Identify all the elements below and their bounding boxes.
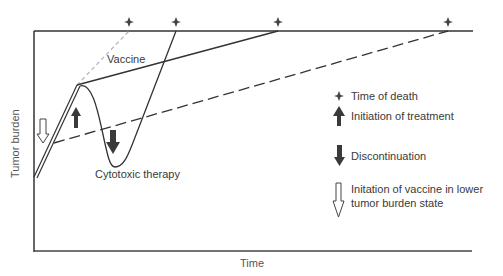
- legend-filled-up-arrow-icon: [333, 106, 345, 126]
- legend-label-initiation: Initiation of treatment: [351, 110, 454, 123]
- diamond-star-icon: [171, 17, 181, 27]
- death-markers: [124, 17, 453, 27]
- vaccine-curve-label: Vaccine: [107, 53, 145, 66]
- legend-label-discontinuation: Discontinuation: [351, 150, 426, 163]
- legend-label-vaccine-lower-1: Initation of vaccine in lower: [351, 183, 483, 196]
- legend-filled-down-arrow-icon: [334, 145, 345, 166]
- legend-diamond-star-icon: [334, 91, 344, 101]
- cytotoxic-therapy-label: Cytotoxic therapy: [95, 168, 180, 181]
- hollow-down-arrow-icon: [37, 119, 49, 143]
- tumor-burden-diagram: [0, 0, 503, 276]
- legend-hollow-down-arrow-icon: [333, 183, 344, 217]
- diamond-star-icon: [273, 17, 283, 27]
- y-axis-label: Tumor burden: [9, 109, 21, 178]
- legend-label-time-of-death: Time of death: [351, 90, 418, 103]
- cytotoxic-therapy-curve: [80, 31, 176, 167]
- filled-up-arrow-icon: [71, 107, 81, 128]
- x-axis-label: Time: [240, 257, 264, 270]
- diamond-star-icon: [443, 17, 453, 27]
- diamond-star-icon: [124, 17, 134, 27]
- legend-label-vaccine-lower-2: tumor burden state: [351, 197, 443, 210]
- filled-down-arrow-icon: [106, 130, 120, 154]
